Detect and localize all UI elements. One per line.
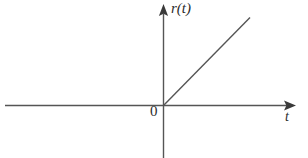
ramp-function-ray <box>164 18 251 106</box>
graph-figure: r(t) t 0 <box>0 0 308 158</box>
x-axis-label: t <box>285 110 289 124</box>
axes-and-curve-svg <box>0 0 308 158</box>
origin-label: 0 <box>150 104 158 119</box>
y-axis-label: r(t) <box>171 1 191 16</box>
